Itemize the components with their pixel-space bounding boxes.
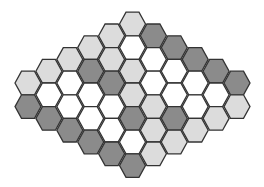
hex-cell-light[interactable] (161, 130, 187, 154)
hex-cell-empty[interactable] (57, 71, 83, 95)
hex-cell-empty[interactable] (161, 59, 187, 83)
hex-cell-light[interactable] (120, 59, 146, 83)
hex-cell-light[interactable] (203, 107, 229, 131)
hex-cell-light[interactable] (224, 95, 250, 119)
hex-cell-empty[interactable] (182, 71, 208, 95)
hex-cell-empty[interactable] (203, 83, 229, 107)
hex-cell-dark[interactable] (203, 59, 229, 83)
hex-cell-empty[interactable] (161, 83, 187, 107)
hex-cell-light[interactable] (15, 71, 41, 95)
hex-cell-light[interactable] (182, 118, 208, 142)
hex-cell-dark[interactable] (120, 107, 146, 131)
hex-cell-light[interactable] (120, 83, 146, 107)
hex-cell-empty[interactable] (140, 48, 166, 72)
hex-cell-dark[interactable] (182, 48, 208, 72)
hex-cell-light[interactable] (140, 118, 166, 142)
hex-cell-empty[interactable] (78, 83, 104, 107)
hex-cell-dark[interactable] (15, 95, 41, 119)
hex-cell-dark[interactable] (224, 71, 250, 95)
hex-cell-empty[interactable] (182, 95, 208, 119)
hex-cell-empty[interactable] (120, 130, 146, 154)
hex-cell-dark[interactable] (99, 142, 125, 166)
hex-cell-dark[interactable] (140, 24, 166, 48)
hex-cell-light[interactable] (120, 12, 146, 36)
hex-cell-empty[interactable] (99, 118, 125, 142)
hex-cell-dark[interactable] (57, 118, 83, 142)
hex-cell-light[interactable] (140, 95, 166, 119)
hex-cell-light[interactable] (57, 48, 83, 72)
hex-cell-empty[interactable] (140, 71, 166, 95)
hex-cell-light[interactable] (36, 59, 62, 83)
hex-cell-dark[interactable] (78, 130, 104, 154)
hex-cell-empty[interactable] (78, 107, 104, 131)
hex-cell-light[interactable] (99, 24, 125, 48)
hex-cell-empty[interactable] (57, 95, 83, 119)
hex-cell-light[interactable] (140, 142, 166, 166)
hex-cell-dark[interactable] (161, 107, 187, 131)
hex-cell-dark[interactable] (120, 154, 146, 178)
hex-cell-light[interactable] (78, 36, 104, 60)
hex-cell-dark[interactable] (36, 107, 62, 131)
hex-cell-empty[interactable] (120, 36, 146, 60)
hex-cell-dark[interactable] (99, 71, 125, 95)
hex-cell-light[interactable] (99, 48, 125, 72)
hex-cell-dark[interactable] (78, 59, 104, 83)
hex-cell-empty[interactable] (99, 95, 125, 119)
hex-board (0, 0, 264, 187)
hex-cell-empty[interactable] (36, 83, 62, 107)
hex-cell-dark[interactable] (161, 36, 187, 60)
